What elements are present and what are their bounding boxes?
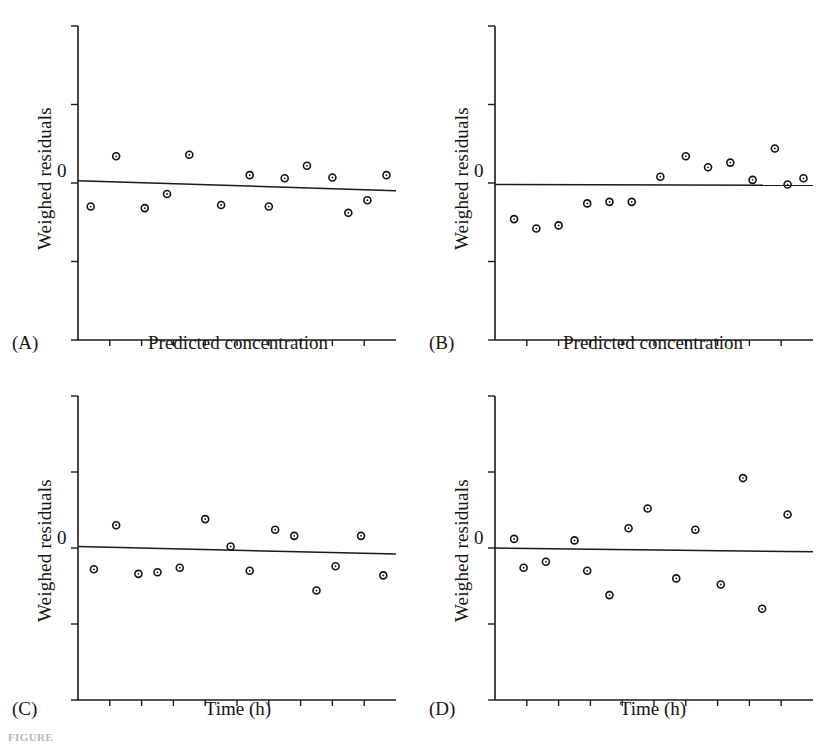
x-axis-label-c: Time (h)	[88, 698, 388, 720]
data-point-core	[647, 508, 649, 510]
data-point-core	[685, 155, 687, 157]
data-point-core	[694, 529, 696, 531]
data-points-A	[87, 151, 390, 216]
data-point-core	[90, 206, 92, 208]
panel-tag-c: (C)	[12, 698, 37, 720]
scatter-plot-d	[487, 390, 817, 710]
data-point-core	[293, 535, 295, 537]
data-point-core	[138, 573, 140, 575]
data-point-core	[157, 571, 159, 573]
data-points-D	[511, 475, 791, 613]
panel-tag-b: (B)	[429, 332, 454, 354]
data-point-core	[752, 179, 754, 181]
data-point-core	[382, 574, 384, 576]
data-point-core	[268, 206, 270, 208]
scatter-plot-b	[487, 20, 817, 350]
data-point-core	[115, 155, 117, 157]
trend-line-A	[78, 181, 396, 191]
data-point-core	[535, 228, 537, 230]
data-point-core	[787, 184, 789, 186]
data-point-core	[284, 177, 286, 179]
data-point-core	[230, 546, 232, 548]
y-zero-tick-label-b: 0	[474, 160, 484, 182]
data-point-core	[631, 201, 633, 203]
y-zero-tick-label-d: 0	[474, 527, 484, 549]
data-point-core	[249, 570, 251, 572]
x-axis-label-d: Time (h)	[503, 698, 803, 720]
data-point-core	[513, 218, 515, 220]
panel-tag-d: (D)	[429, 698, 455, 720]
data-point-core	[787, 514, 789, 516]
data-point-core	[729, 162, 731, 164]
data-point-core	[166, 193, 168, 195]
data-points-B	[511, 145, 807, 232]
data-point-core	[609, 594, 611, 596]
data-point-core	[179, 567, 181, 569]
data-point-core	[335, 565, 337, 567]
x-axis-label-a: Predicted concentration	[88, 332, 388, 354]
data-point-core	[659, 176, 661, 178]
trend-line-C	[78, 546, 396, 554]
data-point-core	[720, 584, 722, 586]
data-point-core	[366, 199, 368, 201]
trend-line-D	[495, 548, 813, 552]
data-point-core	[803, 177, 805, 179]
data-point-core	[332, 177, 334, 179]
y-axis-label-d: Weighed residuals	[451, 479, 473, 622]
data-point-core	[523, 567, 525, 569]
x-axis-label-b: Predicted concentration	[503, 332, 803, 354]
data-point-core	[742, 477, 744, 479]
data-point-core	[761, 608, 763, 610]
figure-caption: FIGURE	[8, 731, 53, 745]
data-point-core	[347, 212, 349, 214]
data-point-core	[558, 224, 560, 226]
y-axis-label-c: Weighed residuals	[34, 479, 56, 622]
data-point-core	[306, 165, 308, 167]
data-point-core	[93, 568, 95, 570]
data-point-core	[628, 527, 630, 529]
figure-root: Weighed residuals 0 (A) Predicted concen…	[0, 0, 825, 745]
data-point-core	[274, 529, 276, 531]
trend-line-B	[495, 185, 813, 186]
data-point-core	[513, 538, 515, 540]
data-point-core	[386, 174, 388, 176]
data-point-core	[115, 524, 117, 526]
data-points-C	[90, 516, 386, 594]
data-point-core	[609, 201, 611, 203]
data-point-core	[249, 174, 251, 176]
data-point-core	[707, 166, 709, 168]
panel-tag-a: (A)	[12, 332, 38, 354]
data-point-core	[675, 578, 677, 580]
data-point-core	[188, 154, 190, 156]
y-axis-label-b: Weighed residuals	[451, 107, 473, 250]
y-zero-tick-label-a: 0	[57, 160, 67, 182]
data-point-core	[144, 207, 146, 209]
data-point-core	[220, 204, 222, 206]
y-zero-tick-label-c: 0	[57, 527, 67, 549]
data-point-core	[360, 535, 362, 537]
data-point-core	[545, 561, 547, 563]
data-point-core	[586, 203, 588, 205]
scatter-plot-a	[70, 20, 400, 350]
data-point-core	[204, 518, 206, 520]
y-axis-label-a: Weighed residuals	[34, 107, 56, 250]
scatter-plot-c	[70, 390, 400, 710]
data-point-core	[774, 148, 776, 150]
data-point-core	[316, 590, 318, 592]
data-point-core	[586, 570, 588, 572]
data-point-core	[574, 540, 576, 542]
